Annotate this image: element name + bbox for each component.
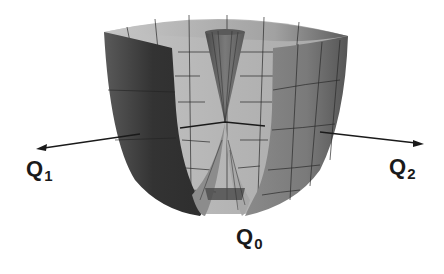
q2-label-main: Q <box>389 154 406 179</box>
q0-label-sub: 0 <box>254 235 262 252</box>
q1-label-sub: 1 <box>44 167 52 184</box>
q2-label: Q2 <box>389 156 415 181</box>
q0-label: Q0 <box>236 226 262 251</box>
q1-label: Q1 <box>26 158 52 183</box>
conical-intersection-diagram <box>0 0 444 274</box>
q1-label-main: Q <box>26 156 43 181</box>
q0-label-main: Q <box>236 224 253 249</box>
q2-axis-arrow <box>320 132 424 147</box>
q2-label-sub: 2 <box>407 165 415 182</box>
